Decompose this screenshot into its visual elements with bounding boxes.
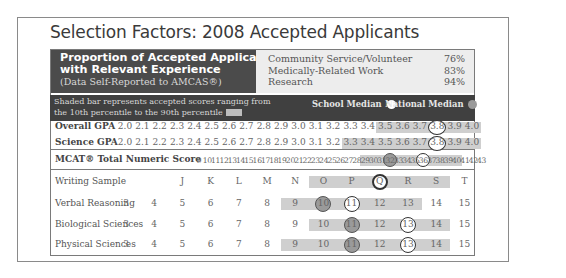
section-scale-value: 14 — [426, 219, 446, 229]
legend-band: Shaded bar represents accepted scores ra… — [50, 95, 475, 121]
section-scale-value: 10 — [313, 239, 333, 249]
percentile-shade-bar — [281, 239, 450, 251]
section-scale-value: O — [313, 176, 333, 186]
section-scale-value: 10 — [313, 198, 333, 208]
section-scale-value: 12 — [370, 198, 390, 208]
section-scale-value: 14 — [426, 239, 446, 249]
section-scale-value: 12 — [370, 219, 390, 229]
national-median-key: National Median — [385, 99, 477, 109]
section-scale-value: 7 — [229, 198, 249, 208]
divider — [50, 149, 475, 150]
gray-dot-icon — [468, 100, 477, 109]
section-scale-value: 5 — [172, 219, 192, 229]
section-scale-value: 7 — [229, 219, 249, 229]
section-scale-value: 9 — [285, 219, 305, 229]
section-scale-value: 11 — [342, 198, 362, 208]
gpa-scale-value: 4.0 — [462, 137, 482, 147]
section-scale-value: 11 — [342, 219, 362, 229]
section-scale-value: 9 — [285, 198, 305, 208]
section-row-label: Writing Sample — [55, 176, 126, 186]
section-scale-value: 4 — [144, 239, 164, 249]
shade-swatch-icon — [226, 109, 242, 116]
section-scale-value: 9 — [285, 239, 305, 249]
section-scale-value: Q — [370, 176, 390, 186]
section-scale-value: J — [172, 176, 192, 186]
section-scale-value: 12 — [370, 239, 390, 249]
section-scale-value: 3 — [116, 198, 136, 208]
section-scale-value: 13 — [398, 219, 418, 229]
gpa-row-label: Science GPA — [55, 137, 118, 147]
section-scale-value: S — [426, 176, 446, 186]
mcat-total-label: MCAT® Total Numeric Score — [55, 154, 201, 164]
section-scale-value: L — [229, 176, 249, 186]
section-scale-value: 15 — [454, 198, 474, 208]
section-scale-value: 8 — [257, 239, 277, 249]
section-scale-value: 10 — [313, 219, 333, 229]
section-scale-value: 7 — [229, 239, 249, 249]
school-median-label: School Median — [312, 99, 382, 109]
section-scale-value: T — [454, 176, 474, 186]
section-scale-value: 14 — [426, 198, 446, 208]
section-scale-value: R — [398, 176, 418, 186]
school-median-key: School Median — [312, 99, 396, 109]
section-scale-value: 8 — [257, 198, 277, 208]
national-median-label: National Median — [385, 99, 463, 109]
section-scale-value: 6 — [201, 198, 221, 208]
mcat-scale-value: 43 — [477, 156, 487, 165]
divider — [50, 169, 475, 170]
section-scale-value: 4 — [144, 198, 164, 208]
section-scale-value: 3 — [116, 219, 136, 229]
section-scale-value: 13 — [398, 239, 418, 249]
gpa-scale-value: 4.0 — [462, 121, 482, 131]
section-scale-value: 13 — [398, 198, 418, 208]
section-scale-value: K — [201, 176, 221, 186]
section-scale-value: 15 — [454, 219, 474, 229]
section-scale-value: M — [257, 176, 277, 186]
page-title: Selection Factors: 2008 Accepted Applica… — [50, 22, 419, 42]
section-scale-value: 15 — [454, 239, 474, 249]
section-scale-value: P — [342, 176, 362, 186]
section-scale-value: 3 — [116, 239, 136, 249]
section-scale-value: 8 — [257, 219, 277, 229]
section-scale-value: 5 — [172, 239, 192, 249]
section-scale-value: 6 — [201, 219, 221, 229]
gpa-row-label: Overall GPA — [55, 121, 115, 131]
section-scale-value: 5 — [172, 198, 192, 208]
legend-description: Shaded bar represents accepted scores ra… — [54, 97, 284, 118]
section-scale-value: N — [285, 176, 305, 186]
section-scale-value: 11 — [342, 239, 362, 249]
section-scale-value: 6 — [201, 239, 221, 249]
section-scale-value: 4 — [144, 219, 164, 229]
